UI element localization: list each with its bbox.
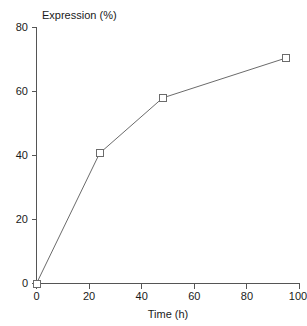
x-tick-label-0: 0 <box>33 290 39 302</box>
x-tick-label-80: 80 <box>241 290 253 302</box>
chart-container: 0 20 40 60 80 0 20 40 60 80 100 Expressi… <box>0 0 307 326</box>
line-chart: 0 20 40 60 80 0 20 40 60 80 100 Expressi… <box>0 0 307 326</box>
y-axis-title: Expression (%) <box>42 9 117 21</box>
chart-background <box>0 0 307 326</box>
x-tick-label-20: 20 <box>83 290 95 302</box>
y-tick-label-60: 60 <box>16 85 28 97</box>
y-tick-label-40: 40 <box>16 149 28 161</box>
x-axis-title: Time (h) <box>148 308 189 320</box>
data-point-3 <box>283 54 290 61</box>
x-tick-label-100: 100 <box>289 290 307 302</box>
y-tick-label-80: 80 <box>16 21 28 33</box>
data-point-2 <box>159 94 166 101</box>
y-tick-label-20: 20 <box>16 213 28 225</box>
data-point-0 <box>33 280 40 287</box>
x-tick-label-40: 40 <box>136 290 148 302</box>
x-tick-label-60: 60 <box>188 290 200 302</box>
y-tick-label-0: 0 <box>22 277 28 289</box>
data-point-1 <box>96 150 103 157</box>
